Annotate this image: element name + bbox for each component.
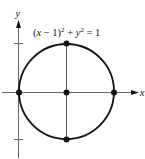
point-right [111,90,117,96]
point-origin [16,90,22,96]
circle-diagram: y x (x − 1)2 + y2 = 1 [0,0,145,159]
x-axis-label: x [139,87,145,98]
point-top [64,41,70,47]
point-center [64,90,70,96]
y-axis-arrow-icon [16,20,21,28]
y-axis-label: y [15,8,21,19]
point-bottom [64,137,70,143]
x-axis-arrow-icon [131,90,139,95]
equation-label: (x − 1)2 + y2 = 1 [33,26,100,39]
